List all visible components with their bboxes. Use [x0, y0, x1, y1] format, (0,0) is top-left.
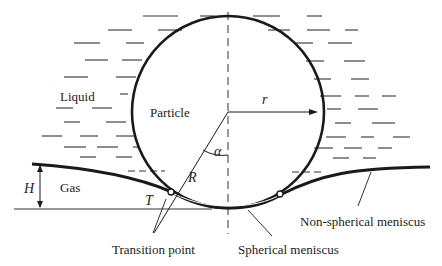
angle-alpha-label: α — [214, 144, 222, 159]
transition-point-left — [168, 189, 174, 195]
meniscus-curve — [32, 164, 430, 208]
tension-T-label: T — [145, 193, 154, 208]
non-spherical-meniscus-label: Non-spherical meniscus — [300, 214, 425, 229]
meniscus-dash-lines — [128, 171, 324, 172]
radius-R-label: R — [187, 170, 197, 185]
gas-label: Gas — [60, 180, 80, 195]
spherical-meniscus-label: Spherical meniscus — [238, 242, 339, 257]
radius-r-label: r — [262, 92, 268, 107]
height-H-label: H — [23, 181, 35, 196]
non-spherical-leader — [358, 172, 371, 206]
spherical-leader — [248, 210, 272, 236]
liquid-hatching — [42, 16, 410, 158]
particle-meniscus-diagram: Liquid Particle Gas r R α H T Transition… — [0, 0, 442, 266]
transition-point-right — [277, 191, 283, 197]
transition-point-label: Transition point — [112, 242, 195, 257]
particle-label: Particle — [150, 105, 190, 120]
radius-r-arrowhead — [309, 109, 318, 115]
liquid-label: Liquid — [60, 89, 95, 104]
height-arrow-bottom — [37, 201, 43, 208]
